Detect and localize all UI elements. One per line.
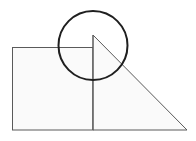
geometry-figure-svg: Geometric composition: square, right tri… [0,0,196,141]
square-shape [13,48,94,131]
figure-canvas: Geometric composition: square, right tri… [0,0,196,141]
